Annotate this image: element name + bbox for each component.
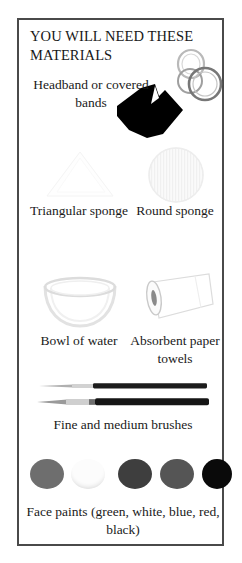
material-label-paper-towels: Absorbent paper towels: [127, 332, 223, 367]
material-label-brushes: Fine and medium brushes: [25, 416, 221, 434]
paintbrush-icon: [37, 394, 209, 406]
bowl-of-water-icon: [37, 272, 123, 330]
material-label-face-paints: Face paints (green, white, blue, red, bl…: [23, 503, 223, 539]
paintbrush-icon: [39, 377, 207, 387]
paint-swatch-green: [30, 459, 64, 489]
paint-dots-icon: [19, 457, 226, 495]
paint-swatch-white: [71, 459, 105, 489]
triangular-sponge-icon: [41, 146, 119, 204]
material-label-headband: Headband or covered bands: [31, 76, 151, 111]
materials-panel: YOU WILL NEED THESE MATERIALS: [17, 18, 224, 546]
paint-swatch-black: [202, 459, 232, 489]
paint-swatch-red: [160, 459, 194, 489]
paint-swatch-blue: [118, 459, 152, 489]
material-label-triangular-sponge: Triangular sponge: [27, 202, 131, 220]
paper-towel-roll-icon: [135, 268, 219, 330]
scanned-page: YOU WILL NEED THESE MATERIALS: [0, 0, 242, 563]
material-label-bowl-of-water: Bowl of water: [27, 332, 131, 350]
materials-panel-inner: YOU WILL NEED THESE MATERIALS: [19, 20, 222, 544]
round-sponge-icon: [145, 144, 207, 206]
material-label-round-sponge: Round sponge: [131, 202, 219, 220]
